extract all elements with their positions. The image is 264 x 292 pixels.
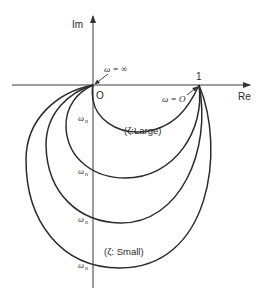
omega-infinity-arrow xyxy=(95,74,108,84)
svg-text:ω: ω xyxy=(78,260,84,270)
svg-text:n: n xyxy=(85,118,88,124)
diagram-canvas: Im Re O 1 ω = ∞ ω = O ω n ω n ω n xyxy=(0,0,264,292)
svg-text:ω: ω xyxy=(78,113,84,123)
svg-text:n: n xyxy=(85,219,88,225)
svg-text:n: n xyxy=(85,265,88,271)
re-axis-label: Re xyxy=(238,91,251,102)
svg-text:n: n xyxy=(85,171,88,177)
omega-n-label-1: ω n xyxy=(78,113,88,124)
svg-text:ω: ω xyxy=(78,214,84,224)
origin-label: O xyxy=(96,90,104,101)
unit-point-label: 1 xyxy=(196,71,202,82)
nyquist-diagram: Im Re O 1 ω = ∞ ω = O ω n ω n ω n xyxy=(0,0,264,292)
curve-zeta-smallest xyxy=(26,85,211,268)
zeta-large-label: (ζ:Large) xyxy=(124,125,161,136)
omega-n-label-2: ω n xyxy=(78,166,88,177)
omega-n-label-4: ω n xyxy=(78,260,88,271)
zeta-small-label: (ζ: Small) xyxy=(104,246,144,257)
im-axis-label: Im xyxy=(72,19,83,30)
omega-zero-label: ω = O xyxy=(162,94,186,104)
svg-text:ω: ω xyxy=(78,166,84,176)
omega-infinity-label: ω = ∞ xyxy=(104,64,127,74)
